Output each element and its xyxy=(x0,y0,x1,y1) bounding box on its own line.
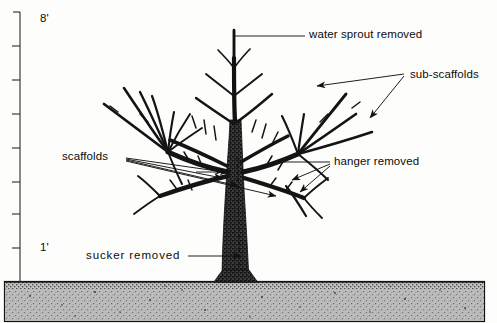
tree-drawing xyxy=(104,30,372,282)
pruning-diagram-figure: 8' 1' water sprout removed sub-scaffolds… xyxy=(0,0,497,323)
label-scaffolds: scaffolds xyxy=(62,150,108,162)
leader-sub-scaffold-a xyxy=(317,74,404,86)
label-sub-scaffolds: sub-scaffolds xyxy=(410,68,479,80)
label-water-sprout-removed: water sprout removed xyxy=(309,28,422,40)
label-hanger-removed: hanger removed xyxy=(334,155,419,167)
label-sucker-removed: sucker removed xyxy=(86,249,180,261)
soil-band xyxy=(5,282,484,321)
height-scale-ruler xyxy=(12,12,20,282)
leader-sub-scaffold-b xyxy=(370,76,404,118)
tree-trunk xyxy=(214,120,258,282)
hanger-branch xyxy=(286,186,306,216)
sub-scaffold-branches-left xyxy=(104,88,202,214)
scale-top-label: 8' xyxy=(40,12,49,24)
scale-bottom-label: 1' xyxy=(40,241,49,253)
